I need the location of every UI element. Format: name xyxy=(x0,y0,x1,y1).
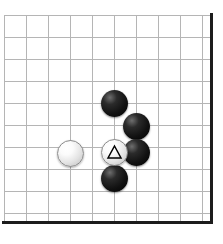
triangle-marker xyxy=(102,140,127,165)
goban-grid[interactable] xyxy=(0,0,223,244)
board-edge-right xyxy=(210,13,213,224)
grid-line-horizontal-3 xyxy=(4,81,210,82)
go-board-diagram xyxy=(0,0,223,244)
grid-line-horizontal-5 xyxy=(4,125,210,126)
board-edge-bottom xyxy=(2,221,213,224)
black-stone-1[interactable] xyxy=(101,90,128,117)
grid-line-horizontal-0 xyxy=(4,15,210,16)
grid-line-horizontal-2 xyxy=(4,59,210,60)
grid-line-horizontal-1 xyxy=(4,37,210,38)
triangle-icon xyxy=(108,146,121,158)
grid-line-horizontal-9 xyxy=(4,213,210,214)
white-stone-marked[interactable] xyxy=(101,139,128,166)
grid-line-horizontal-8 xyxy=(4,191,210,192)
black-stone-2[interactable] xyxy=(123,113,150,140)
black-stone-4[interactable] xyxy=(101,165,128,192)
white-stone-left[interactable] xyxy=(57,140,84,167)
